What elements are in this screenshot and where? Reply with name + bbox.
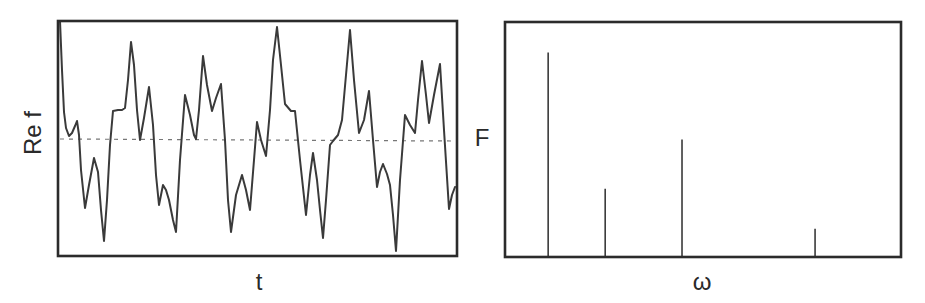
time-domain-panel — [58, 21, 457, 256]
time-y-axis-label: Re f — [21, 111, 45, 155]
spectral-lines — [548, 53, 815, 257]
frequency-domain-panel — [505, 22, 901, 257]
signal-curve — [60, 21, 455, 251]
spectrum-y-axis-label: F — [475, 126, 490, 150]
spectrum-x-axis-label: ω — [693, 270, 712, 294]
time-x-axis-label: t — [256, 270, 263, 294]
spectrum-plot-frame — [505, 22, 901, 257]
zero-reference-line — [60, 139, 455, 141]
figure — [0, 0, 925, 303]
